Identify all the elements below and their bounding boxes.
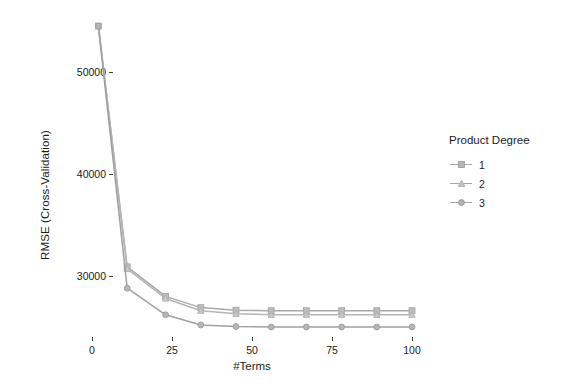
legend-item-2[interactable]: 2 xyxy=(449,174,564,193)
data-point xyxy=(304,324,310,330)
legend-label-2: 2 xyxy=(479,178,485,190)
x-tick-mark xyxy=(252,337,253,341)
y-tick-label: 50000 xyxy=(48,65,106,79)
x-tick-mark xyxy=(92,337,93,341)
data-point xyxy=(233,307,239,313)
series-line xyxy=(98,26,412,327)
y-axis-title: RMSE (Cross-Validation) xyxy=(30,0,60,390)
y-tick-mark xyxy=(109,174,113,175)
data-point xyxy=(233,324,239,330)
x-tick-label: 0 xyxy=(72,344,112,356)
y-tick-label: 30000 xyxy=(48,269,106,283)
data-point xyxy=(409,311,415,317)
chart-container: RMSE (Cross-Validation) 300004000050000 … xyxy=(0,0,570,390)
y-tick-label: 40000 xyxy=(48,167,106,181)
data-point xyxy=(124,266,130,272)
x-axis-title: #Terms xyxy=(192,360,312,372)
data-point xyxy=(339,324,345,330)
data-point xyxy=(304,308,310,314)
data-point xyxy=(162,295,168,301)
data-point xyxy=(96,23,102,29)
x-tick-label: 100 xyxy=(392,344,432,356)
legend-key-triangle-icon xyxy=(449,174,473,193)
legend-item-1[interactable]: 1 xyxy=(449,155,564,174)
data-point xyxy=(198,307,204,313)
data-point xyxy=(268,308,274,314)
legend-label-3: 3 xyxy=(479,197,485,209)
series-line xyxy=(98,26,412,311)
data-point xyxy=(124,285,130,291)
series-1 xyxy=(96,23,415,313)
legend-key-square-icon xyxy=(449,155,473,174)
data-point xyxy=(198,322,204,328)
data-point xyxy=(374,311,380,317)
series-2 xyxy=(95,23,415,318)
data-point xyxy=(409,324,415,330)
data-point xyxy=(303,311,309,317)
data-point xyxy=(268,311,274,317)
series-3 xyxy=(96,23,415,330)
legend-label-1: 1 xyxy=(479,159,485,171)
series-line xyxy=(98,26,412,315)
legend: Product Degree 1 2 xyxy=(449,134,564,212)
x-tick-label: 50 xyxy=(232,344,272,356)
data-point xyxy=(374,324,380,330)
y-tick-mark xyxy=(109,276,113,277)
x-tick-label: 25 xyxy=(152,344,192,356)
data-point xyxy=(233,310,239,316)
x-tick-mark xyxy=(412,337,413,341)
data-point xyxy=(124,264,130,270)
data-point xyxy=(163,312,169,318)
data-point xyxy=(163,294,169,300)
legend-title: Product Degree xyxy=(449,134,564,146)
data-point xyxy=(96,23,102,29)
x-tick-label: 75 xyxy=(312,344,352,356)
legend-item-3[interactable]: 3 xyxy=(449,193,564,212)
data-point xyxy=(338,311,344,317)
x-tick-mark xyxy=(172,337,173,341)
data-point xyxy=(339,308,345,314)
legend-key-circle-icon xyxy=(449,193,473,212)
data-point xyxy=(198,305,204,311)
data-point xyxy=(374,308,380,314)
y-tick-mark xyxy=(109,72,113,73)
data-point xyxy=(268,324,274,330)
data-point xyxy=(95,23,101,29)
data-point xyxy=(409,308,415,314)
x-tick-mark xyxy=(332,337,333,341)
